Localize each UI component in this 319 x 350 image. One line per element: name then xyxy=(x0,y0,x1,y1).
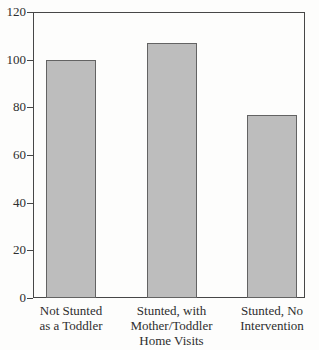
y-axis-tick-label: 0 xyxy=(0,290,26,305)
bar-chart: 020406080100120 Not Stunted as a Toddler… xyxy=(0,0,319,350)
category-label: Not Stunted as a Toddler xyxy=(39,303,102,333)
bar xyxy=(247,115,297,299)
y-axis-tick-mark xyxy=(27,298,33,299)
y-axis-tick-label: 40 xyxy=(0,195,26,210)
y-axis-tick-label: 100 xyxy=(0,52,26,67)
y-axis-tick-label: 60 xyxy=(0,147,26,162)
y-axis-tick-label: 120 xyxy=(0,4,26,19)
y-axis-tick-label: 80 xyxy=(0,99,26,114)
category-label: Stunted, with Mother/Toddler Home Visits xyxy=(130,303,212,348)
bar xyxy=(147,43,197,298)
bars-group xyxy=(33,12,305,298)
y-axis-tick-label: 20 xyxy=(0,242,26,257)
bar xyxy=(46,60,96,298)
category-label: Stunted, No Intervention xyxy=(240,303,304,333)
